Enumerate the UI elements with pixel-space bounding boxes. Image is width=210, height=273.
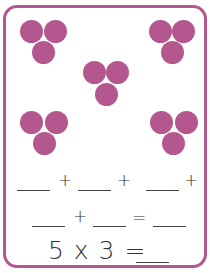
dot bbox=[106, 61, 129, 84]
dot bbox=[162, 132, 185, 155]
dot bbox=[175, 111, 198, 134]
plus-sign: + bbox=[73, 208, 87, 225]
answer-blank-1[interactable] bbox=[17, 190, 50, 191]
dot bbox=[32, 41, 55, 64]
dot bbox=[45, 111, 68, 134]
dot bbox=[149, 20, 172, 43]
dot bbox=[161, 41, 184, 64]
equals-sign: = bbox=[132, 210, 146, 227]
multiplication-expression: 5 x 3 = bbox=[48, 238, 146, 263]
dot bbox=[83, 61, 106, 84]
plus-sign: + bbox=[117, 172, 131, 189]
dot bbox=[20, 111, 43, 134]
dot bbox=[95, 83, 118, 106]
answer-blank-3[interactable] bbox=[146, 190, 179, 191]
answer-blank-4[interactable] bbox=[32, 226, 65, 227]
dot bbox=[150, 111, 173, 134]
plus-sign: + bbox=[184, 172, 198, 189]
answer-blank-sum[interactable] bbox=[153, 226, 186, 227]
dot bbox=[33, 132, 56, 155]
dot bbox=[172, 20, 195, 43]
answer-blank-product[interactable] bbox=[136, 262, 169, 263]
answer-blank-5[interactable] bbox=[93, 226, 126, 227]
dot bbox=[44, 20, 67, 43]
answer-blank-2[interactable] bbox=[78, 190, 111, 191]
dot bbox=[20, 20, 43, 43]
plus-sign: + bbox=[58, 172, 72, 189]
